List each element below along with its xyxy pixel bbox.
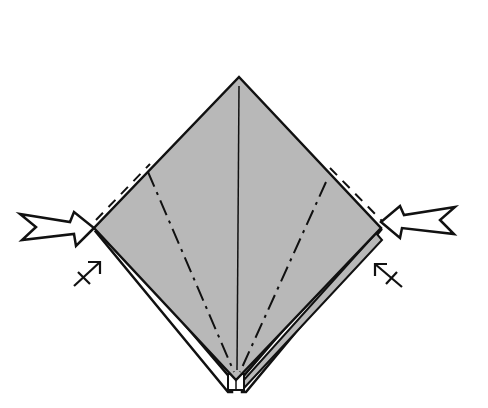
origami-diagram	[0, 0, 488, 408]
left-fold-arrow-icon	[74, 262, 100, 286]
left-push-arrow-icon	[20, 212, 94, 246]
right-push-arrow-icon	[381, 206, 455, 238]
right-fold-arrow-icon	[375, 264, 402, 287]
